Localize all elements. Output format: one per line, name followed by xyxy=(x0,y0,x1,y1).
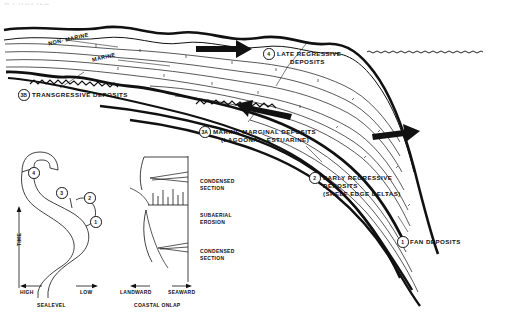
figure-canvas: A PROFILE xyxy=(0,0,513,316)
coastal-onlap-graphic xyxy=(0,0,513,316)
onlap-curve-upper xyxy=(140,157,144,190)
landward-label: LANDWARD xyxy=(120,289,152,297)
onlap-curve-middle xyxy=(130,188,149,205)
subaerial-erosion-ticks xyxy=(153,189,183,205)
onlap-chart-title: COASTAL ONLAP xyxy=(134,302,181,310)
condensed-section-upper-label-line2: SECTION xyxy=(200,185,224,193)
landward-arrowhead xyxy=(130,284,136,288)
subaerial-erosion-label-line2: EROSION xyxy=(200,219,225,227)
condensed-section-lower-label-line2: SECTION xyxy=(200,255,224,263)
condensed-section-lower-wedge xyxy=(158,243,188,252)
seaward-arrowhead xyxy=(186,284,192,288)
onlap-curve-lower-2 xyxy=(146,210,168,268)
condensed-section-upper-wedge xyxy=(150,172,188,182)
seaward-label: SEAWARD xyxy=(168,289,195,297)
